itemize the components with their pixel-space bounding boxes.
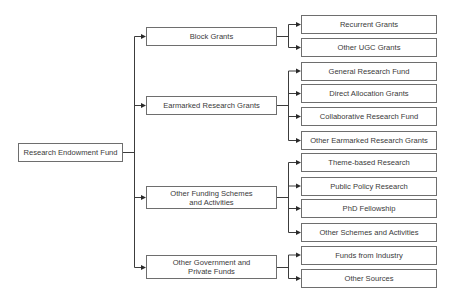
root-node: Research Endowment Fund — [18, 143, 123, 162]
node-other-schemes-activities: Other Schemes and Activities — [301, 223, 437, 242]
node-general-research-fund: General Research Fund — [301, 62, 437, 81]
node-direct-allocation-grants: Direct Allocation Grants — [301, 84, 437, 103]
node-collaborative-research-fund: Collaborative Research Fund — [301, 107, 437, 126]
node-other-government-private-funds: Other Government and Private Funds — [146, 255, 277, 279]
node-phd-fellowship: PhD Fellowship — [301, 199, 437, 218]
node-other-sources: Other Sources — [301, 269, 437, 288]
node-other-earmarked-research-grants: Other Earmarked Research Grants — [301, 131, 437, 150]
node-public-policy-research: Public Policy Research — [301, 177, 437, 196]
node-funds-from-industry: Funds from Industry — [301, 246, 437, 265]
node-earmarked-research-grants: Earmarked Research Grants — [146, 96, 277, 115]
node-other-ugc-grants: Other UGC Grants — [301, 38, 437, 57]
node-theme-based-research: Theme-based Research — [301, 153, 437, 172]
node-block-grants: Block Grants — [146, 27, 277, 46]
node-recurrent-grants: Recurrent Grants — [301, 15, 437, 34]
node-other-funding-schemes: Other Funding Schemes and Activities — [146, 186, 277, 209]
